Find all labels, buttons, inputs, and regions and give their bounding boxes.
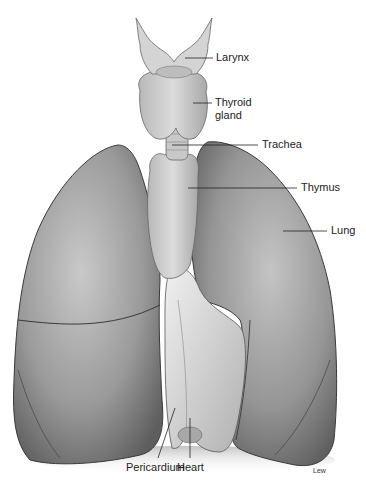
label-thymus: Thymus bbox=[301, 181, 340, 194]
thymus-shape bbox=[148, 150, 199, 278]
anatomy-illustration: Larynx Thyroid gland Trachea Thymus Lung… bbox=[0, 0, 366, 487]
label-heart: Heart bbox=[177, 461, 204, 474]
label-thyroid-gland: Thyroid gland bbox=[215, 96, 252, 122]
lung-right-lobe bbox=[14, 145, 163, 464]
cricoid-ring bbox=[156, 66, 192, 78]
label-larynx: Larynx bbox=[216, 51, 249, 64]
label-trachea: Trachea bbox=[262, 138, 302, 151]
organ-drawing bbox=[0, 0, 366, 487]
artist-credit: Lew bbox=[313, 467, 326, 474]
label-lung: Lung bbox=[331, 224, 355, 237]
thyroid-shape bbox=[139, 71, 208, 140]
label-pericardium: Pericardium bbox=[126, 461, 185, 474]
larynx-shape bbox=[136, 18, 212, 74]
